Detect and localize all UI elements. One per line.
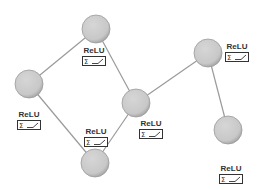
activation-name: ReLU xyxy=(137,119,165,128)
svg-text:Σ: Σ xyxy=(19,122,23,129)
activation-name: ReLU xyxy=(15,110,43,119)
sum-relu-icon: Σ xyxy=(82,56,106,66)
activation-name: ReLU xyxy=(82,127,110,136)
activation-label-n3: ReLUΣ xyxy=(223,42,251,62)
activation-label-n6: ReLUΣ xyxy=(217,164,245,184)
svg-text:Σ: Σ xyxy=(84,58,88,65)
sum-relu-icon: Σ xyxy=(139,129,163,139)
activation-label-n5: ReLUΣ xyxy=(82,127,110,147)
nodes xyxy=(15,15,242,177)
activation-label-n4: ReLUΣ xyxy=(137,119,165,139)
svg-text:Σ: Σ xyxy=(227,54,231,61)
node-n1 xyxy=(82,15,110,43)
activation-name: ReLU xyxy=(217,164,245,173)
svg-text:Σ: Σ xyxy=(86,139,90,146)
svg-text:Σ: Σ xyxy=(141,131,145,138)
sum-relu-icon: Σ xyxy=(84,137,108,147)
activation-name: ReLU xyxy=(223,42,251,51)
network-diagram xyxy=(0,0,264,190)
activation-label-n2: ReLUΣ xyxy=(15,110,43,130)
node-n3 xyxy=(194,39,222,67)
sum-relu-icon: Σ xyxy=(219,174,243,184)
node-n2 xyxy=(15,70,43,98)
svg-text:Σ: Σ xyxy=(221,176,225,183)
node-n6 xyxy=(214,116,242,144)
sum-relu-icon: Σ xyxy=(225,52,249,62)
node-n4 xyxy=(122,89,150,117)
activation-name: ReLU xyxy=(80,46,108,55)
activation-label-n1: ReLUΣ xyxy=(80,46,108,66)
sum-relu-icon: Σ xyxy=(17,120,41,130)
node-n5 xyxy=(81,149,109,177)
